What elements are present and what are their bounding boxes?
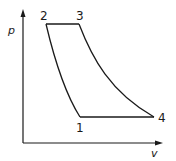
point-label-3: 3 [76, 9, 84, 23]
x-axis-label: v [151, 147, 158, 160]
point-label-2: 2 [40, 9, 48, 23]
y-axis [21, 9, 26, 143]
point-label-4: 4 [158, 111, 166, 125]
point-label-1: 1 [76, 121, 84, 135]
x-axis-arrow-icon [155, 141, 163, 146]
cycle-path [46, 24, 154, 117]
process-3-4 [79, 24, 154, 117]
diagram-canvas: p v 2 3 4 1 [0, 0, 176, 161]
y-axis-arrow-icon [21, 9, 26, 17]
y-axis-label: p [7, 24, 15, 37]
x-axis [23, 141, 163, 146]
process-1-2 [46, 24, 80, 117]
pv-diagram: p v 2 3 4 1 [0, 0, 176, 161]
